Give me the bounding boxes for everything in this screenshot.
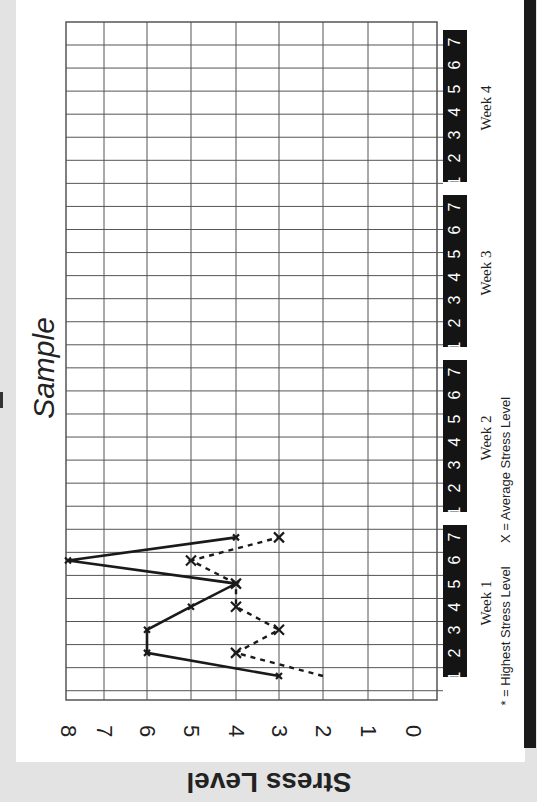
day-label-2: 2 bbox=[444, 476, 466, 500]
y-tick-8: 8 bbox=[55, 716, 81, 746]
day-label-3: 3 bbox=[444, 123, 466, 147]
day-label-6: 6 bbox=[444, 383, 466, 407]
day-label-6: 6 bbox=[444, 218, 466, 242]
day-label-5: 5 bbox=[444, 407, 466, 431]
day-label-5: 5 bbox=[444, 242, 466, 266]
day-label-7: 7 bbox=[444, 525, 466, 549]
day-label-7: 7 bbox=[444, 30, 466, 54]
day-label-1: 1 bbox=[444, 334, 466, 358]
week-3-day-block: 1234567 bbox=[443, 195, 467, 347]
day-label-2: 2 bbox=[444, 146, 466, 170]
y-tick-0: 0 bbox=[400, 716, 426, 746]
highest-stress-line bbox=[68, 537, 279, 676]
day-label-2: 2 bbox=[444, 641, 466, 665]
day-label-7: 7 bbox=[444, 360, 466, 384]
day-label-6: 6 bbox=[444, 548, 466, 572]
week-2-day-block: 1234567 bbox=[443, 360, 467, 512]
week-1-day-block: 1234567 bbox=[443, 525, 467, 677]
day-label-7: 7 bbox=[444, 195, 466, 219]
day-label-5: 5 bbox=[444, 77, 466, 101]
y-tick-2: 2 bbox=[310, 716, 336, 746]
day-label-3: 3 bbox=[444, 288, 466, 312]
average-stress-line bbox=[191, 537, 323, 676]
day-label-1: 1 bbox=[444, 664, 466, 688]
day-label-3: 3 bbox=[444, 453, 466, 477]
day-label-4: 4 bbox=[444, 265, 466, 289]
y-tick-1: 1 bbox=[355, 716, 381, 746]
day-label-4: 4 bbox=[444, 430, 466, 454]
day-label-4: 4 bbox=[444, 595, 466, 619]
y-tick-5: 5 bbox=[178, 716, 204, 746]
week-4-day-block: 1234567 bbox=[443, 30, 467, 182]
day-label-5: 5 bbox=[444, 572, 466, 596]
day-label-2: 2 bbox=[444, 311, 466, 335]
y-axis-label: Stress Level bbox=[0, 762, 537, 802]
day-label-1: 1 bbox=[444, 499, 466, 523]
y-tick-4: 4 bbox=[223, 716, 249, 746]
y-tick-3: 3 bbox=[266, 716, 292, 746]
day-label-4: 4 bbox=[444, 100, 466, 124]
y-tick-6: 6 bbox=[134, 716, 160, 746]
day-label-3: 3 bbox=[444, 618, 466, 642]
day-label-1: 1 bbox=[444, 169, 466, 193]
y-tick-7: 7 bbox=[91, 716, 117, 746]
day-label-6: 6 bbox=[444, 53, 466, 77]
